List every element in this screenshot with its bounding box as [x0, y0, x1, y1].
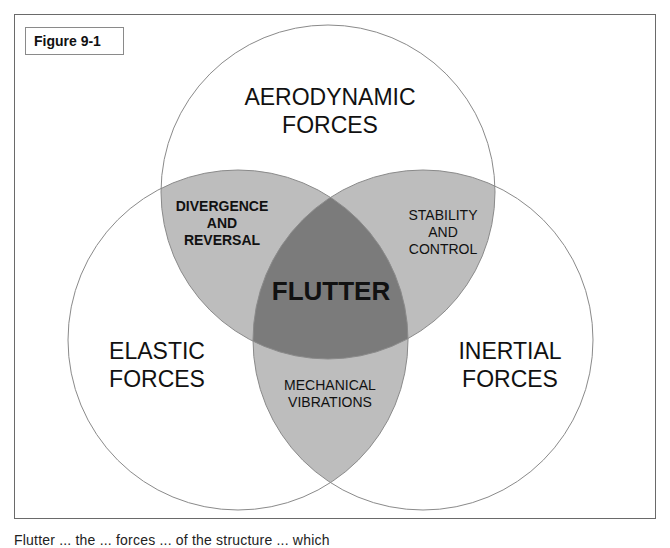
label-aerodynamic-1: AERODYNAMIC: [244, 84, 415, 110]
label-elastic-1: ELASTIC: [109, 338, 205, 364]
label-aerodynamic-2: FORCES: [282, 112, 378, 138]
caption-text: Flutter ... the ... forces ... of the st…: [14, 532, 330, 548]
label-divergence-3: REVERSAL: [184, 232, 261, 248]
label-flutter: FLUTTER: [272, 276, 391, 306]
label-inertial-2: FORCES: [462, 366, 558, 392]
label-mechanical-1: MECHANICAL: [284, 377, 376, 393]
label-elastic-2: FORCES: [109, 366, 205, 392]
label-divergence-2: AND: [207, 215, 237, 231]
label-inertial-1: INERTIAL: [458, 338, 561, 364]
label-stability-2: AND: [428, 224, 458, 240]
label-mechanical-2: VIBRATIONS: [288, 394, 372, 410]
label-stability-1: STABILITY: [409, 207, 479, 223]
figure-label: Figure 9-1: [25, 27, 124, 55]
label-stability-3: CONTROL: [409, 241, 478, 257]
label-divergence-1: DIVERGENCE: [176, 198, 269, 214]
